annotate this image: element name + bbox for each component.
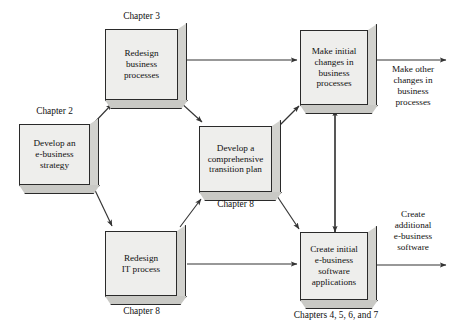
node-3d-bottom-face	[300, 105, 378, 114]
caption-chapter-2: Chapter 2	[9, 106, 100, 117]
node-redesign-it-process[interactable]: Redesign IT process	[105, 231, 177, 296]
caption-chapter-8-plan: Chapter 8	[190, 199, 281, 210]
node-create-initial-software[interactable]: Create initial e-business software appli…	[300, 232, 368, 300]
node-label: Redesign IT process	[122, 253, 160, 275]
node-make-initial-changes[interactable]: Make initial changes in business process…	[300, 30, 368, 105]
node-label: Develop a comprehensive transition plan	[208, 143, 264, 176]
node-3d-right-face	[178, 23, 187, 102]
output-label-create-additional-software: Create additional e-business software	[379, 209, 447, 253]
node-label: Develop an e-business strategy	[33, 138, 75, 171]
node-transition-plan[interactable]: Develop a comprehensive transition plan	[199, 126, 272, 192]
node-3d-right-face	[177, 225, 186, 298]
caption-chapter-3: Chapter 3	[96, 11, 187, 22]
node-3d-bottom-face	[19, 185, 100, 194]
node-3d-bottom-face	[105, 296, 187, 305]
node-3d-right-face	[368, 226, 377, 302]
node-label: Redesign business processes	[124, 48, 159, 81]
caption-chapter-8-it: Chapter 8	[96, 306, 187, 317]
node-label: Create initial e-business software appli…	[310, 244, 358, 287]
diagram-canvas: Develop an e-business strategy Chapter 2…	[0, 0, 449, 332]
node-label: Make initial changes in business process…	[312, 46, 357, 89]
output-label-make-other-changes: Make other changes in business processes	[379, 64, 447, 108]
connector-strategy-to-it-process	[93, 186, 112, 226]
node-3d-bottom-face	[105, 100, 188, 109]
node-3d-right-face	[90, 118, 99, 187]
node-redesign-business-processes[interactable]: Redesign business processes	[105, 29, 178, 100]
node-3d-right-face	[368, 24, 377, 107]
node-3d-bottom-face	[300, 300, 378, 309]
node-3d-right-face	[272, 120, 281, 194]
caption-chapters-4-5-6-7: Chapters 4, 5, 6, and 7	[276, 310, 396, 321]
node-develop-strategy[interactable]: Develop an e-business strategy	[19, 124, 90, 185]
